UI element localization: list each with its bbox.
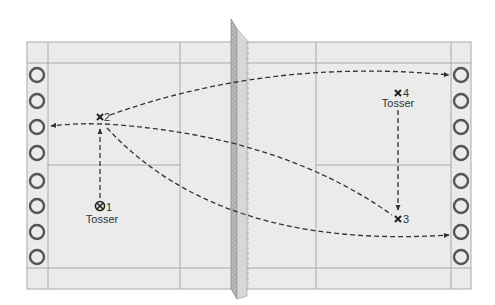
net	[231, 19, 247, 299]
player-role: Tosser	[382, 97, 415, 109]
player-number: 1	[106, 201, 112, 213]
drill-diagram: 1 Tosser 2 3 4 Tosser	[0, 0, 495, 305]
net-top-flap	[231, 19, 237, 299]
player-role: Tosser	[86, 213, 119, 225]
player-number: 3	[403, 213, 409, 225]
player-number: 2	[104, 111, 110, 123]
court	[27, 42, 471, 289]
net-panel	[237, 29, 247, 299]
